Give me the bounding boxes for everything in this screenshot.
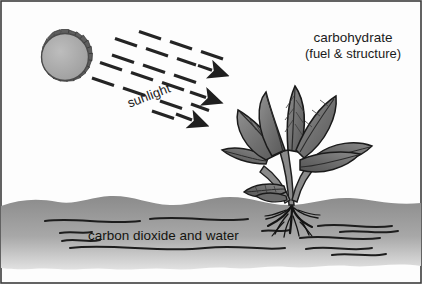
sun-icon [42,30,93,82]
carbohydrate-label-line2: (fuel & structure) [305,46,401,61]
sun-core [42,34,89,81]
carbohydrate-label: carbohydrate (fuel & structure) [305,30,401,61]
soil-label: carbon dioxide and water [88,228,239,244]
photosynthesis-diagram: carbohydrate (fuel & structure) sunlight… [0,0,422,284]
carbohydrate-label-line1: carbohydrate [305,30,401,46]
